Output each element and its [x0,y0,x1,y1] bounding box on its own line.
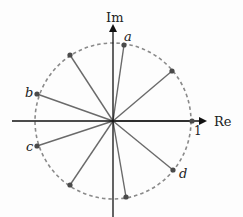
complex-plane-diagram: Im Re 1 a b c d [0,0,243,217]
point-label-d: d [179,166,187,181]
point-b [34,91,39,96]
real-axis-label: Re [214,114,232,129]
point-6 [67,182,72,187]
spoke-line [37,94,113,121]
spoke-line [37,121,113,146]
spoke-line [113,121,126,197]
point-1 [169,68,174,73]
spoke-line [113,71,172,121]
diagram-canvas: Im Re 1 a b c d [0,0,243,217]
point-7 [123,194,128,199]
point-c [34,143,39,148]
point-label-c: c [26,139,34,154]
spoke-line [113,45,124,121]
point-d [170,167,175,172]
point-0 [189,118,194,123]
spoke-line [70,55,113,121]
spoke-line [113,121,173,170]
point-3 [67,52,72,57]
point-label-b: b [25,85,33,100]
unit-tick-label: 1 [194,124,202,138]
imaginary-axis-label: Im [106,10,123,25]
axes [12,26,205,217]
point-label-a: a [124,29,132,44]
spoke-line [70,121,113,185]
